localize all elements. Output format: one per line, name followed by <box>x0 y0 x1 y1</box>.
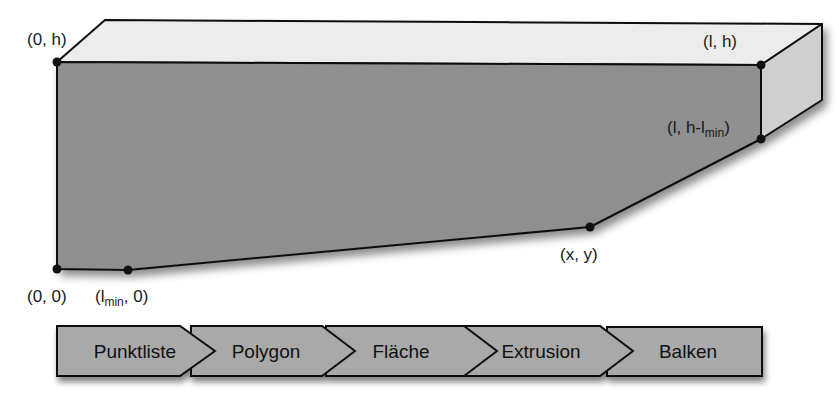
label-x-y: (x, y) <box>560 245 598 264</box>
label-lmin-0: (lmin, 0) <box>95 287 148 309</box>
step-flaeche: Fläche <box>372 341 429 362</box>
beam-front-face <box>57 62 761 270</box>
step-punktliste: Punktliste <box>94 341 176 362</box>
label-0-h: (0, h) <box>27 30 67 49</box>
vertex-lmin-0 <box>124 266 133 275</box>
label-0-0: (0, 0) <box>27 287 67 306</box>
vertex-l-h-lmin <box>757 135 766 144</box>
vertex-x-y <box>586 223 595 232</box>
step-balken: Balken <box>659 341 717 362</box>
label-l-h: (l, h) <box>703 32 737 51</box>
beam-diagram: (0, h) (l, h) (l, h-lmin) (x, y) (0, 0) … <box>0 0 839 408</box>
vertex-0-h <box>53 58 62 67</box>
vertex-l-h <box>757 61 766 70</box>
beam-solid <box>57 20 822 270</box>
step-polygon: Polygon <box>232 341 301 362</box>
vertex-0-0 <box>53 265 62 274</box>
step-extrusion: Extrusion <box>501 341 580 362</box>
